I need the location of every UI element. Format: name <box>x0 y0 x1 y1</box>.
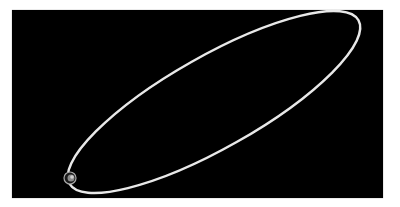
orbiting-body-icon <box>64 172 76 184</box>
orbit-ellipse <box>47 0 381 207</box>
orbit-diagram <box>0 0 400 207</box>
